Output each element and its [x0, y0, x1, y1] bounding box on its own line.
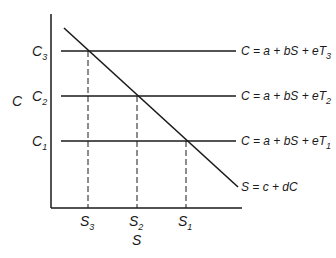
y-axis-label: C [12, 93, 23, 109]
y-tick-c1: C1 [32, 133, 47, 152]
y-tick-c3: C3 [32, 43, 47, 62]
y-tick-c2: C2 [32, 88, 47, 107]
equation-c2: C = a + bS + eT2 [241, 89, 331, 106]
diagram-canvas: C C3 C2 C1 S3 S2 S1 S C = a + bS + eT3 C… [0, 0, 336, 258]
x-tick-s2: S2 [129, 213, 143, 232]
x-axis-label: S [132, 232, 142, 248]
equation-c1: C = a + bS + eT1 [241, 134, 331, 151]
x-tick-s3: S3 [80, 213, 94, 232]
line-s-equals-c-plus-dc [64, 28, 238, 187]
equation-c3: C = a + bS + eT3 [241, 44, 331, 61]
equation-diagonal: S = c + dC [241, 180, 298, 194]
x-tick-s1: S1 [178, 213, 192, 232]
